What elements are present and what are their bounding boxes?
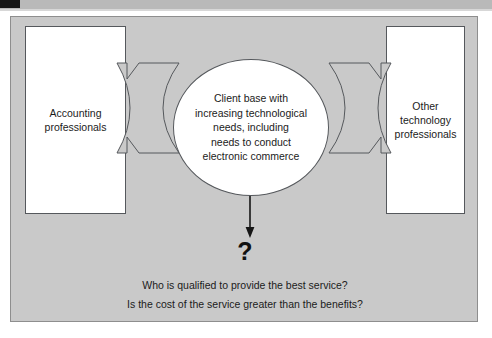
node-client-base-line-1: Client base with <box>195 91 307 105</box>
node-client-base-line-5: electronic commerce <box>195 149 307 163</box>
top-bar-shadow <box>0 9 492 11</box>
node-accounting-line-2: professionals <box>45 120 107 134</box>
node-accounting-line-1: Accounting <box>45 106 107 120</box>
node-client-base-line-3: needs, including <box>195 120 307 134</box>
node-other-tech-line-3: professionals <box>395 127 457 141</box>
node-accounting-professionals-text: Accounting professionals <box>45 106 107 134</box>
diagram-canvas: Accounting professionals Other technolog… <box>10 16 478 322</box>
top-bar-marker <box>0 0 20 8</box>
arrow-center-down-icon <box>243 195 257 239</box>
question-line-1: Who is qualified to provide the best ser… <box>11 279 479 291</box>
node-other-technology-professionals: Other technology professionals <box>386 26 465 214</box>
top-page-bar <box>0 0 492 9</box>
node-other-tech-text: Other technology professionals <box>395 99 457 142</box>
node-accounting-professionals: Accounting professionals <box>25 26 126 214</box>
node-other-tech-line-2: technology <box>395 113 457 127</box>
node-client-base-line-4: needs to conduct <box>195 135 307 149</box>
arrow-left-to-center-icon <box>117 63 179 153</box>
node-client-base-line-2: increasing technological <box>195 106 307 120</box>
node-client-base-text: Client base with increasing technologica… <box>181 91 321 163</box>
questions-block: Who is qualified to provide the best ser… <box>11 279 479 310</box>
question-mark-symbol: ? <box>11 239 479 264</box>
node-client-base: Client base with increasing technologica… <box>173 59 329 196</box>
question-line-2: Is the cost of the service greater than … <box>11 298 479 310</box>
arrow-right-to-center-icon <box>323 63 391 153</box>
node-other-tech-line-1: Other <box>395 99 457 113</box>
